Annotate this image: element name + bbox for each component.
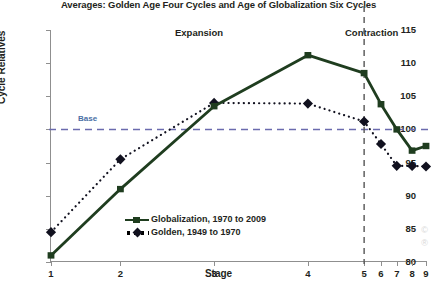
chart-legend: Globalization, 1970 to 2009 Golden, 1949… xyxy=(125,213,266,239)
legend-label-golden: Golden, 1949 to 1970 xyxy=(151,226,241,239)
x-tick-label: 1 xyxy=(41,268,61,279)
marker-globalization-stage-2 xyxy=(117,186,124,192)
x-tick-label: 3 xyxy=(204,268,224,279)
chart-title: Averages: Golden Age Four Cycles and Age… xyxy=(0,0,437,10)
marker-globalization-stage-5 xyxy=(361,70,368,76)
legend-item-golden: Golden, 1949 to 1970 xyxy=(125,226,266,239)
marker-golden-stage-6 xyxy=(376,139,386,149)
watermark-top: © xyxy=(421,225,428,235)
marker-globalization-stage-9 xyxy=(423,143,430,149)
marker-golden-stage-9 xyxy=(421,161,431,171)
x-tick-label: 4 xyxy=(298,268,318,279)
base-line-label: Base xyxy=(78,114,97,123)
marker-golden-stage-2 xyxy=(115,154,125,164)
chart-container: Averages: Golden Age Four Cycles and Age… xyxy=(0,0,437,298)
legend-label-globalization: Globalization, 1970 to 2009 xyxy=(151,213,266,226)
x-tick-label: 9 xyxy=(416,268,436,279)
marker-globalization-stage-1 xyxy=(48,252,55,258)
legend-item-globalization: Globalization, 1970 to 2009 xyxy=(125,213,266,226)
marker-globalization-stage-3 xyxy=(211,103,218,109)
legend-swatch-dotted-line-icon xyxy=(125,227,149,238)
marker-globalization-stage-4 xyxy=(305,52,312,58)
x-tick xyxy=(426,261,427,266)
x-tick-label: 2 xyxy=(110,268,130,279)
marker-golden-stage-4 xyxy=(303,99,313,109)
marker-globalization-stage-8 xyxy=(409,147,416,153)
marker-globalization-stage-6 xyxy=(378,101,385,107)
marker-golden-stage-8 xyxy=(407,161,417,171)
y-axis-title: Cycle Relatives xyxy=(0,31,7,104)
legend-swatch-solid-line-icon xyxy=(125,214,149,225)
watermark-bottom: ® xyxy=(421,238,428,248)
marker-globalization-stage-7 xyxy=(393,126,400,132)
